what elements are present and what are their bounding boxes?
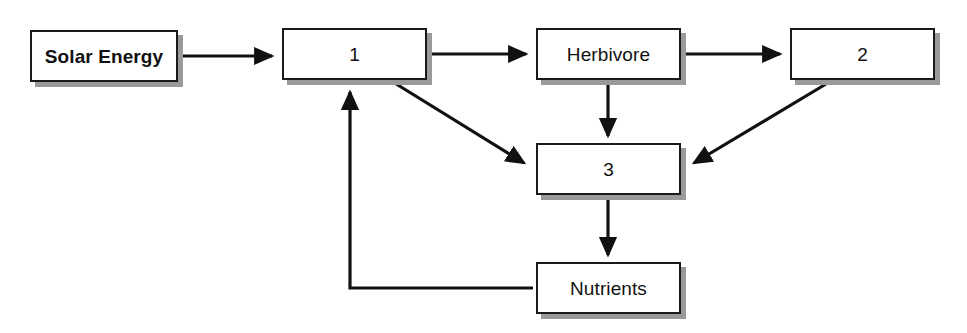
node-decomposer-3[interactable]: 3 — [536, 143, 681, 195]
node-label-herbivore: Herbivore — [567, 45, 650, 64]
node-label-decomposer-3: 3 — [603, 160, 614, 179]
node-solar-energy[interactable]: Solar Energy — [30, 30, 178, 82]
node-consumer-2[interactable]: 2 — [790, 28, 935, 80]
edge-2-to-3 — [694, 84, 826, 163]
node-producer-1[interactable]: 1 — [282, 28, 427, 80]
edge-1-to-3 — [393, 82, 524, 163]
flow-diagram-canvas: Solar Energy 1 Herbivore 2 3 Nutrients — [0, 0, 967, 333]
edge-nutrients-to-1-feedback — [350, 92, 533, 288]
node-label-producer-1: 1 — [349, 45, 360, 64]
node-label-nutrients: Nutrients — [570, 279, 647, 298]
node-herbivore[interactable]: Herbivore — [536, 28, 681, 80]
node-label-solar-energy: Solar Energy — [45, 47, 163, 66]
node-nutrients[interactable]: Nutrients — [536, 262, 681, 314]
node-label-consumer-2: 2 — [857, 45, 868, 64]
